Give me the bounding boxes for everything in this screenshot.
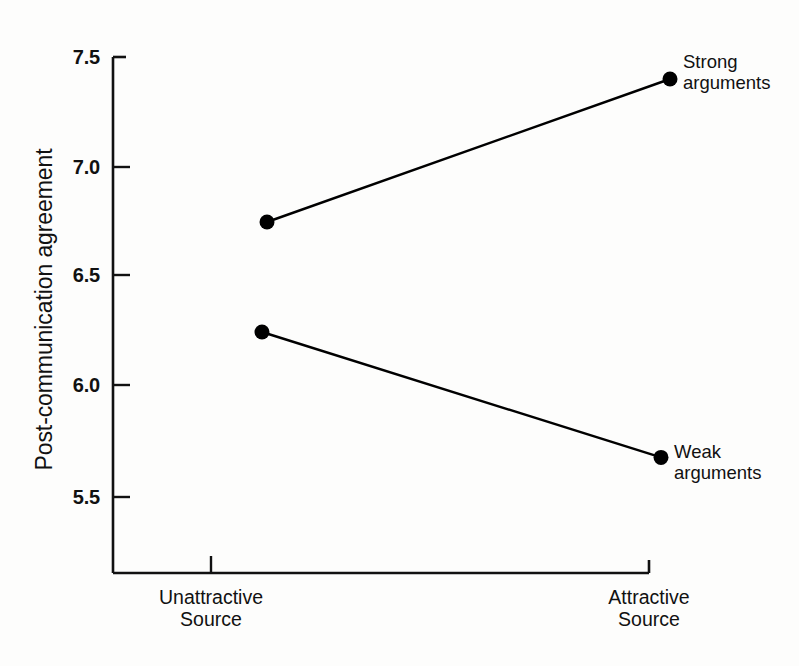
y-axis-title: Post-communication agreement [31, 100, 58, 520]
weak-arguments-point-attractive [654, 450, 669, 465]
series-strong-arguments [260, 72, 678, 230]
strong-arguments-line [267, 79, 670, 222]
x-tick-label-attractive-line1: Attractive [608, 586, 689, 608]
y-tick-label-7-5: 7.5 [40, 46, 100, 69]
figure-canvas: 7.5 7.0 6.5 6.0 5.5 Post-communication a… [0, 0, 799, 666]
series-label-weak-line2: arguments [674, 462, 761, 483]
series-label-strong-line2: arguments [683, 72, 770, 93]
chart-plot-area [0, 0, 799, 666]
x-tick-label-unattractive-source: Unattractive Source [159, 586, 263, 630]
strong-arguments-point-unattractive [260, 215, 275, 230]
weak-arguments-point-unattractive [255, 325, 270, 340]
series-label-weak-line1: Weak [674, 441, 721, 462]
y-axis-ticks [113, 57, 130, 497]
strong-arguments-point-attractive [663, 72, 678, 87]
x-tick-label-attractive-source: Attractive Source [608, 586, 689, 630]
x-tick-label-unattractive-line2: Source [180, 608, 242, 630]
x-tick-label-attractive-line2: Source [618, 608, 680, 630]
x-tick-label-unattractive-line1: Unattractive [159, 586, 263, 608]
weak-arguments-line [262, 332, 661, 457]
series-label-strong-line1: Strong [683, 51, 738, 72]
axis-spines [113, 57, 649, 573]
series-label-weak-arguments: Weak arguments [674, 441, 761, 484]
series-weak-arguments [255, 325, 669, 465]
series-label-strong-arguments: Strong arguments [683, 51, 770, 94]
